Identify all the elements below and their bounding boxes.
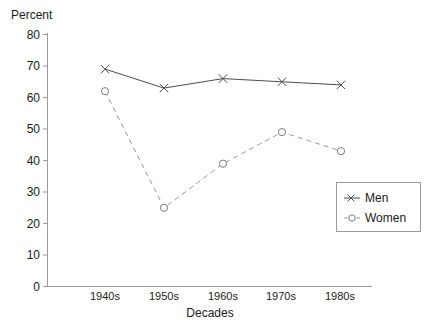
- y-axis-ticks: [43, 35, 47, 287]
- legend-label-men: Men: [365, 191, 388, 205]
- data-point-marker: [337, 148, 344, 155]
- line-chart: Percent 80 70 60 50 40 30 20 10 0 1940s …: [0, 0, 428, 332]
- legend-label-women: Women: [365, 211, 406, 225]
- legend-item-women: Women: [343, 210, 406, 226]
- series-women: [101, 88, 344, 212]
- data-point-marker: [219, 160, 226, 167]
- plot-area: [0, 0, 428, 332]
- circle-marker-icon: [343, 211, 361, 225]
- legend: Men Women: [336, 182, 421, 232]
- legend-item-men: Men: [343, 190, 388, 206]
- series-men: [101, 65, 345, 92]
- series-line: [105, 91, 341, 208]
- data-point-marker: [160, 204, 167, 211]
- data-series-layer: [101, 65, 345, 211]
- data-point-marker: [278, 129, 285, 136]
- cross-marker-icon: [343, 191, 361, 205]
- data-point-marker: [101, 65, 109, 73]
- data-point-marker: [101, 88, 108, 95]
